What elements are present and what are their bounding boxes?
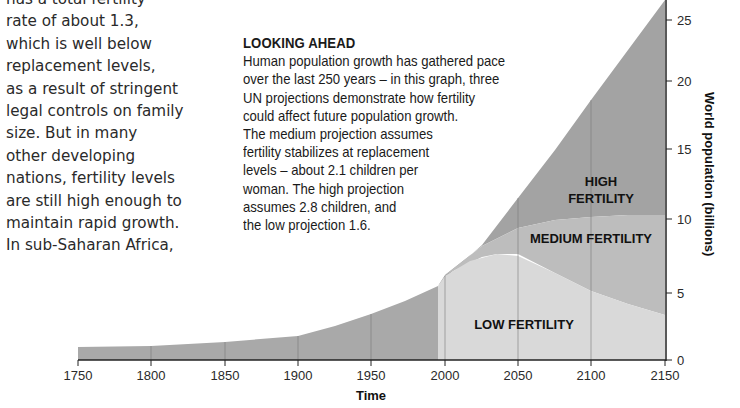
callout-line: woman. The high projection bbox=[243, 180, 540, 198]
y-tick-label: 20 bbox=[677, 74, 691, 89]
y-axis-ticks bbox=[666, 20, 672, 360]
callout-line: fertility stabilizes at replacement bbox=[243, 143, 540, 161]
callout-line: UN projections demonstrate how fertility bbox=[243, 89, 540, 107]
x-tick-label: 1900 bbox=[284, 368, 313, 383]
x-tick-label: 2150 bbox=[651, 368, 680, 383]
x-tick-label: 1950 bbox=[357, 368, 386, 383]
callout-line: Human population growth has gathered pac… bbox=[243, 52, 540, 70]
high-fertility-label-2: FERTILITY bbox=[568, 191, 634, 206]
looking-ahead-callout: LOOKING AHEAD Human population growth ha… bbox=[243, 34, 573, 234]
callout-line: could affect future population growth. bbox=[243, 107, 540, 125]
y-tick-labels: 0 5 10 15 20 25 bbox=[677, 13, 691, 368]
x-tick-label: 1750 bbox=[64, 368, 93, 383]
y-tick-label: 15 bbox=[677, 142, 691, 157]
callout-heading: LOOKING AHEAD bbox=[243, 34, 540, 52]
x-tick-label: 2000 bbox=[431, 368, 460, 383]
y-tick-label: 5 bbox=[677, 286, 684, 301]
low-fertility-label: LOW FERTILITY bbox=[474, 317, 574, 332]
historical-area bbox=[78, 286, 438, 360]
x-tick-labels: 1750 1800 1850 1900 1950 2000 2050 2100 … bbox=[64, 368, 680, 383]
callout-line: the low projection 1.6. bbox=[243, 216, 540, 234]
x-axis-ticks bbox=[78, 360, 665, 366]
y-tick-label: 25 bbox=[677, 13, 691, 28]
y-tick-label: 0 bbox=[677, 353, 684, 368]
x-axis-title: Time bbox=[356, 388, 386, 403]
y-axis-title: World population (billions) bbox=[702, 92, 717, 256]
x-tick-label: 2050 bbox=[504, 368, 533, 383]
high-fertility-label: HIGH bbox=[585, 174, 618, 189]
callout-line: The medium projection assumes bbox=[243, 125, 540, 143]
x-tick-label: 1800 bbox=[137, 368, 166, 383]
callout-line: assumes 2.8 children, and bbox=[243, 198, 540, 216]
y-tick-label: 10 bbox=[677, 212, 691, 227]
x-tick-label: 2100 bbox=[577, 368, 606, 383]
callout-line: over the last 250 years – in this graph,… bbox=[243, 70, 540, 88]
callout-line: levels – about 2.1 children per bbox=[243, 161, 540, 179]
x-tick-label: 1850 bbox=[211, 368, 240, 383]
